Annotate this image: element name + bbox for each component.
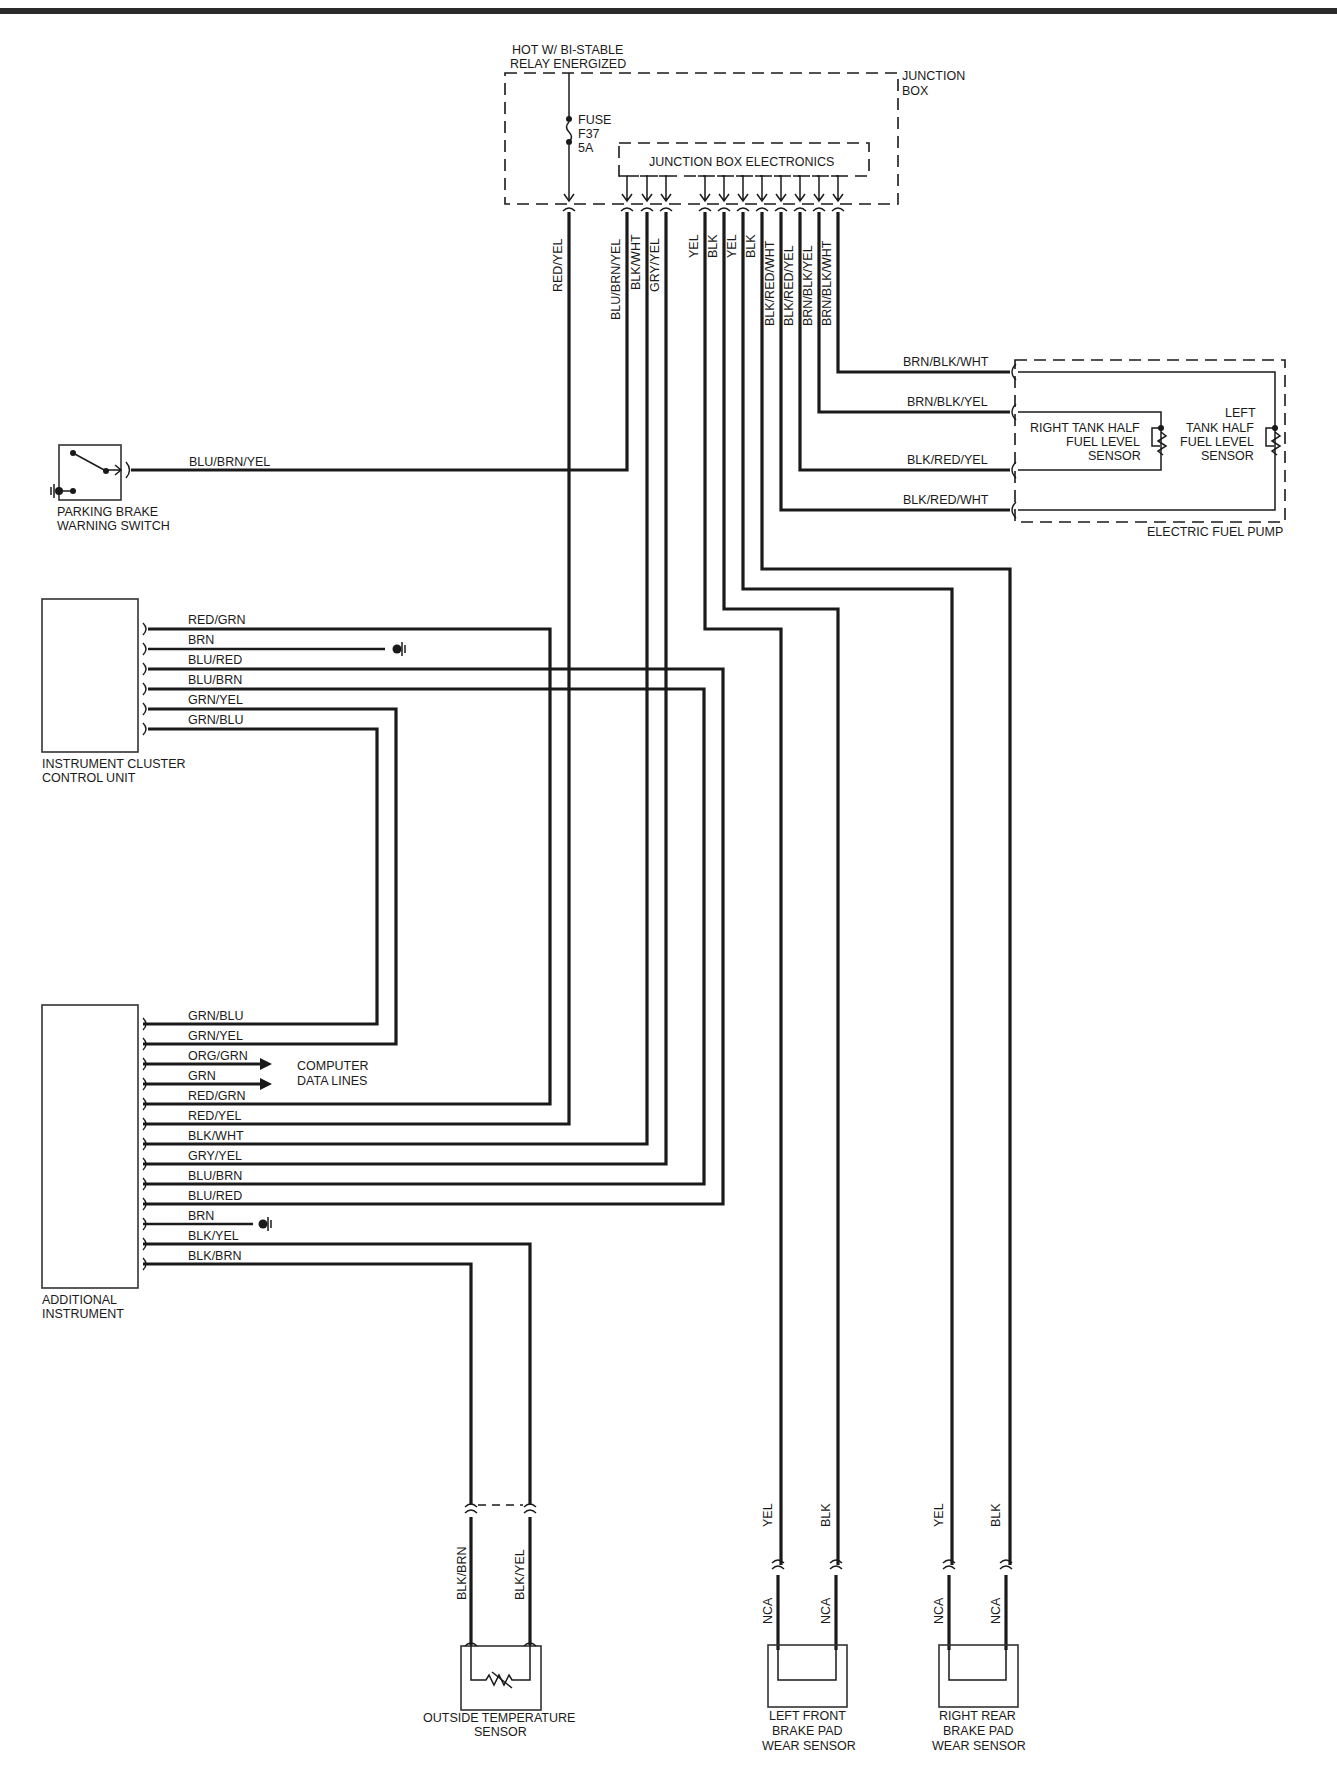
junction-box-wire-labels: RED/YEL BLU/BRN/YEL BLK/WHT GRY/YEL YEL … — [551, 234, 834, 326]
temp-sensor-label-line1: OUTSIDE TEMPERATURE — [423, 1711, 575, 1725]
wire-label: BLU/RED — [188, 653, 242, 667]
rr-sensor-label-line2: BRAKE PAD — [943, 1724, 1014, 1738]
ground-icon — [393, 642, 406, 656]
ground-icon — [51, 484, 54, 498]
data-lines-label-line2: DATA LINES — [297, 1074, 367, 1088]
wire-ai-blk-brn — [143, 1264, 471, 1505]
wire-label: BLK/RED/WHT — [763, 240, 777, 326]
wiring-diagram: HOT W/ BI-STABLE RELAY ENERGIZED JUNCTIO… — [0, 0, 1337, 1776]
left-front-brake-pad-wear-sensor: YEL BLK NCA NCA LEFT FRONT BRAKE PAD WEA… — [761, 1503, 856, 1753]
wire-label: BRN — [188, 1209, 214, 1223]
sensor-loop — [778, 1650, 836, 1680]
right-sensor-label-line1: RIGHT TANK HALF — [1030, 421, 1140, 435]
wire-label: GRN/BLU — [188, 1009, 244, 1023]
ground-icon — [259, 1217, 272, 1231]
instrument-cluster-label-line1: INSTRUMENT CLUSTER — [42, 757, 186, 771]
rr-sensor-label-line3: WEAR SENSOR — [932, 1739, 1026, 1753]
wire-label: GRN/YEL — [188, 1029, 243, 1043]
fuse-label-line3: 5A — [578, 141, 594, 155]
lf-sensor-label-line1: LEFT FRONT — [769, 1709, 846, 1723]
wire-label: BLK/RED/WHT — [903, 493, 989, 507]
wire-label: BLU/BRN — [188, 673, 242, 687]
switch-icon — [55, 450, 121, 495]
right-sensor-label-line2: FUEL LEVEL — [1066, 435, 1140, 449]
right-rear-brake-pad-wear-sensor: YEL BLK NCA NCA RIGHT REAR BRAKE PAD WEA… — [932, 1503, 1026, 1753]
wire-label: RED/GRN — [188, 1089, 246, 1103]
left-sensor-label-line3: FUEL LEVEL — [1180, 435, 1254, 449]
wire-label: BLK — [744, 234, 758, 258]
wire-label: ORG/GRN — [188, 1049, 248, 1063]
wire-label: GRN/YEL — [188, 693, 243, 707]
wire-label: RED/YEL — [551, 238, 565, 292]
wires — [131, 212, 1010, 1650]
connector — [126, 462, 130, 478]
wire-label: NCA — [761, 1597, 775, 1624]
power-label-line1: HOT W/ BI-STABLE — [512, 43, 623, 57]
right-sensor-label-line3: SENSOR — [1088, 449, 1141, 463]
junction-box-label-line1: JUNCTION — [902, 69, 965, 83]
lf-sensor-label-line2: BRAKE PAD — [772, 1724, 843, 1738]
wire-yel-right-rear — [743, 212, 952, 1565]
lf-sensor-label-line3: WEAR SENSOR — [762, 1739, 856, 1753]
wire-label: YEL — [932, 1503, 946, 1527]
wire-label: BLK/WHT — [188, 1129, 244, 1143]
rr-sensor-label-line1: RIGHT REAR — [939, 1709, 1016, 1723]
fuse-f37-icon — [564, 73, 574, 201]
parking-brake-warning-switch: BLU/BRN/YEL PARKING BRAKE WARNING SWITCH — [51, 445, 270, 533]
junction-box-connectors — [563, 208, 844, 211]
wire-label: BLK — [706, 234, 720, 258]
wire-label: GRN — [188, 1069, 216, 1083]
wire-label: YEL — [687, 234, 701, 258]
power-label-line2: RELAY ENERGIZED — [510, 57, 626, 71]
wire-label: BLK — [819, 1503, 833, 1527]
additional-instrument-label-line1: ADDITIONAL — [42, 1293, 117, 1307]
left-sensor-label-line2: TANK HALF — [1186, 421, 1254, 435]
junction-box-electronics-label: JUNCTION BOX ELECTRONICS — [649, 155, 834, 169]
wire-label: NCA — [989, 1597, 1003, 1624]
wire-label: BLK — [989, 1503, 1003, 1527]
junction-box-label-line2: BOX — [902, 84, 929, 98]
outside-temperature-sensor: BLK/BRN BLK/YEL OUTSIDE TEMPERATURE SENS… — [423, 1504, 575, 1739]
fuel-pump-label: ELECTRIC FUEL PUMP — [1147, 525, 1283, 539]
junction-box: HOT W/ BI-STABLE RELAY ENERGIZED JUNCTIO… — [505, 43, 965, 326]
wire-label: BLK/BRN — [188, 1249, 242, 1263]
wire-label: BLU/RED — [188, 1189, 242, 1203]
wire-label: BRN — [188, 633, 214, 647]
data-lines-label-line1: COMPUTER — [297, 1059, 369, 1073]
additional-instrument-box — [42, 1005, 138, 1288]
wire-label: BLU/BRN/YEL — [609, 239, 623, 320]
wire-label: BLU/BRN/YEL — [189, 455, 270, 469]
wire-label: GRY/YEL — [188, 1149, 242, 1163]
left-fuel-level-sensor-icon — [1266, 425, 1280, 455]
fuse-label-line1: FUSE — [578, 113, 611, 127]
fuse-label-line2: F37 — [578, 127, 600, 141]
wire-label: BLK/BRN — [455, 1547, 469, 1601]
temp-sensor-label-line2: SENSOR — [474, 1725, 527, 1739]
wire-ic-grn-blu — [143, 729, 377, 1024]
wire-brn-blk-wht — [838, 212, 1010, 372]
right-fuel-level-sensor-icon — [1152, 425, 1166, 455]
wire-label: GRN/BLU — [188, 713, 244, 727]
junction-box-outline — [505, 73, 898, 204]
instrument-cluster-box — [42, 599, 138, 752]
wire-label: BLK/RED/YEL — [907, 453, 988, 467]
wire-label: YEL — [761, 1503, 775, 1527]
wire-label: GRY/YEL — [648, 238, 662, 292]
wire-label: NCA — [819, 1597, 833, 1624]
wire-label: BLU/BRN — [188, 1169, 242, 1183]
jbe-output-arrows — [619, 176, 843, 201]
left-sensor-label-line1: LEFT — [1225, 406, 1256, 420]
parking-brake-label-line2: WARNING SWITCH — [57, 519, 170, 533]
wire-label: BLK/YEL — [513, 1549, 527, 1600]
wire-label: BLK/YEL — [188, 1229, 239, 1243]
wire-label: RED/GRN — [188, 613, 246, 627]
wire-brn-blk-yel — [819, 212, 1010, 412]
wire-label: YEL — [725, 234, 739, 258]
instrument-cluster-connectors — [143, 623, 146, 735]
instrument-cluster-label-line2: CONTROL UNIT — [42, 771, 136, 785]
instrument-cluster-control-unit: RED/GRN BRN BLU/RED BLU/BRN GRN/YEL GRN/… — [42, 599, 405, 785]
wire-label: BRN/BLK/WHT — [820, 240, 834, 326]
sensor-loop — [949, 1650, 1006, 1680]
wire-label: RED/YEL — [188, 1109, 242, 1123]
wire-label: BLK/WHT — [629, 234, 643, 290]
